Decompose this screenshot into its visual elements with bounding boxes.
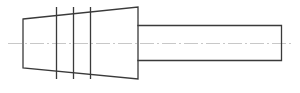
part-drawing: [0, 0, 300, 93]
